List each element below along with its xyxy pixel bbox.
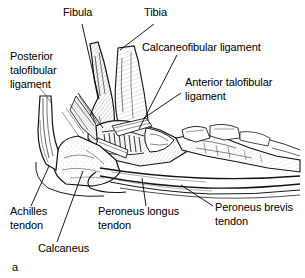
- label-fibula: Fibula: [63, 6, 92, 20]
- label-achilles-line2: tendon: [10, 219, 43, 233]
- label-achilles-line1: Achilles: [10, 205, 47, 219]
- figure-letter: a: [12, 261, 18, 273]
- label-peroneus-brevis-line1: Peroneus brevis: [215, 201, 293, 215]
- label-peroneus-brevis-line2: tendon: [215, 215, 248, 229]
- label-posterior-talofibular-line2: talofibular: [10, 64, 57, 78]
- label-calcaneofibular-ligament: Calcaneofibular ligament: [142, 41, 261, 55]
- label-anterior-talofibular-line2: ligament: [185, 90, 226, 104]
- label-peroneus-longus-line2: tendon: [98, 219, 131, 233]
- label-posterior-talofibular-line1: Posterior: [10, 50, 53, 64]
- label-posterior-talofibular-line3: ligament: [10, 78, 51, 92]
- label-anterior-talofibular-line1: Anterior talofibular: [185, 76, 272, 90]
- label-peroneus-longus-line1: Peroneus longus: [98, 205, 179, 219]
- label-tibia: Tibia: [144, 6, 167, 20]
- label-calcaneus: Calcaneus: [38, 242, 89, 256]
- figure-panel: Fibula Tibia Calcaneofibular ligament Po…: [0, 0, 305, 278]
